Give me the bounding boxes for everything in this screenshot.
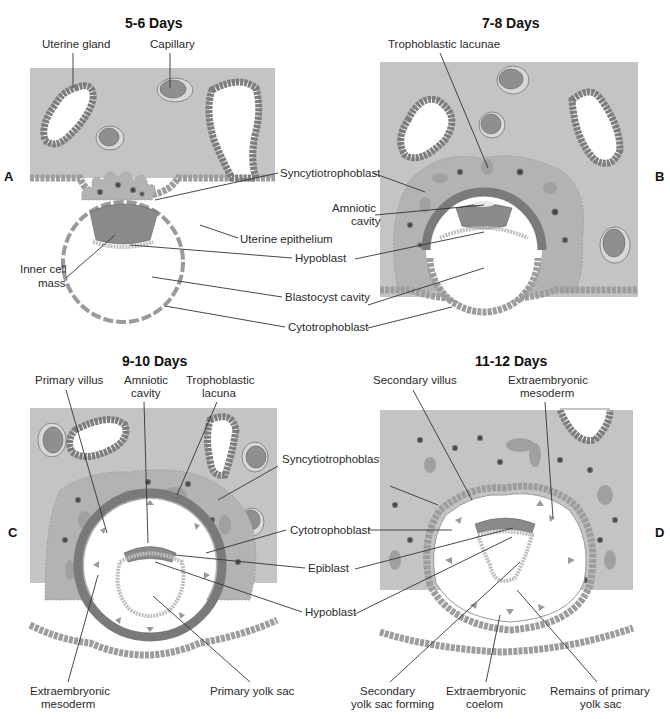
- label-uterine-epithelium: Uterine epithelium: [240, 233, 333, 245]
- panel-c-title: 9-10 Days: [122, 353, 188, 369]
- label-amniotic-cavity-b-1: Amniotic: [332, 202, 376, 214]
- panel-d-letter: D: [655, 525, 664, 540]
- label-inner-cell-mass-2: mass: [38, 277, 66, 289]
- label-blastocyst-cavity: Blastocyst cavity: [285, 291, 370, 303]
- label-remains-primary-yolk-sac-2: yolk sac: [580, 698, 622, 710]
- label-secondary-yolk-sac-2: yolk sac forming: [351, 698, 434, 710]
- label-extraembryonic-coelom-2: coelom: [466, 698, 503, 710]
- label-remains-primary-yolk-sac-1: Remains of primary: [550, 685, 650, 697]
- extraembryonic-coelom-d: [434, 494, 587, 622]
- embryo-implantation-diagram: 5-6 Days A Uterine gland Capillary Syncy…: [0, 0, 670, 719]
- label-inner-cell-mass-1: Inner cell: [20, 263, 67, 275]
- label-trophoblastic-lacunae: Trophoblastic lacunae: [388, 38, 500, 50]
- label-extraembryonic-coelom-1: Extraembryonic: [446, 685, 526, 697]
- panel-c-letter: C: [8, 525, 18, 540]
- panel-a: 5-6 Days A Uterine gland Capillary Syncy…: [4, 15, 381, 333]
- panel-b-title: 7-8 Days: [482, 15, 540, 31]
- label-amniotic-cavity-b-2: cavity: [351, 215, 381, 227]
- label-secondary-villus: Secondary villus: [373, 374, 457, 386]
- label-cytotrophoblast-c: Cytotrophoblast: [290, 524, 371, 536]
- panel-b-letter: B: [655, 169, 664, 184]
- panel-a-title: 5-6 Days: [125, 15, 183, 31]
- label-secondary-yolk-sac-1: Secondary: [360, 685, 415, 697]
- label-epiblast: Epiblast: [308, 562, 350, 574]
- capillary-2-lumen: [99, 128, 119, 146]
- label-extraembryonic-mesoderm-c-2: mesoderm: [41, 698, 95, 710]
- label-amniotic-cavity-c-2: cavity: [131, 387, 161, 399]
- label-syncytiotrophoblast-a: Syncytiotrophoblast: [280, 167, 381, 179]
- panel-c: 9-10 Days C Primary villus Amniotic cavi…: [8, 353, 383, 710]
- amniotic-cavity-b: [474, 201, 494, 207]
- label-amniotic-cavity-c-1: Amniotic: [124, 374, 168, 386]
- label-primary-yolk-sac: Primary yolk sac: [210, 685, 295, 697]
- inner-cell-mass: [90, 204, 158, 244]
- label-extraembryonic-mesoderm-d-2: mesoderm: [520, 387, 574, 399]
- label-extraembryonic-mesoderm-c-1: Extraembryonic: [30, 685, 110, 697]
- label-syncytiotrophoblast-c: Syncytiotrophoblast: [282, 453, 383, 465]
- capillary-lumen: [160, 80, 186, 98]
- label-trophoblastic-lacuna-2: lacuna: [202, 387, 236, 399]
- primary-yolk-sac-c: [84, 499, 216, 631]
- epiblast-b: [456, 204, 512, 229]
- panel-a-letter: A: [4, 169, 14, 184]
- label-primary-villus: Primary villus: [35, 374, 104, 386]
- panel-d-title: 11-12 Days: [475, 353, 548, 369]
- label-cytotrophoblast-a: Cytotrophoblast: [288, 321, 369, 333]
- panel-d: 11-12 Days D Secondary villus Extraembry…: [351, 353, 664, 710]
- label-trophoblastic-lacuna-1: Trophoblastic: [186, 374, 255, 386]
- label-uterine-gland: Uterine gland: [42, 38, 110, 50]
- panel-b: 7-8 Days B Trophoblastic lacunae Amnioti…: [332, 15, 664, 328]
- label-hypoblast-a: Hypoblast: [295, 252, 347, 264]
- label-hypoblast-c: Hypoblast: [305, 606, 357, 618]
- label-capillary: Capillary: [150, 38, 195, 50]
- label-extraembryonic-mesoderm-d-1: Extraembryonic: [508, 374, 588, 386]
